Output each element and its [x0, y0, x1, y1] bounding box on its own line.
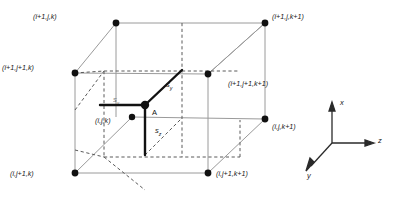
vector-s-y-subscript: y — [170, 85, 173, 91]
cell-nodes — [72, 20, 269, 177]
node-label-top-back-right: (i+1,j,k+1) — [272, 13, 304, 20]
node-top-front-left — [72, 70, 79, 77]
point-a-label: A — [152, 108, 157, 117]
axis-x-arrowhead — [329, 102, 335, 111]
node-top-front-right — [205, 71, 212, 78]
vector-s-x-subscript: x — [117, 100, 120, 106]
edge-front-top — [75, 73, 208, 74]
node-point-a — [141, 101, 149, 109]
hidden-diag-sz-guide — [145, 118, 182, 155]
node-bot-back-left — [129, 114, 135, 120]
node-top-back-right — [262, 20, 269, 27]
node-label-top-back-left: (i+1,j,k) — [33, 13, 57, 20]
figure-canvas: (i+1,j,k) (i+1,j,k+1) (i+1,j+1,k) (i+1,j… — [0, 0, 398, 199]
cube-hidden-edges — [75, 23, 240, 190]
axis-label-z: z — [378, 136, 382, 145]
axis-z-arrowhead — [365, 140, 374, 146]
axis-triad — [306, 102, 374, 171]
edge-top-left-diag — [75, 23, 116, 73]
node-bot-front-right — [205, 170, 212, 177]
axis-label-y: y — [307, 171, 311, 180]
axis-label-x: x — [340, 98, 344, 107]
edge-mid-horiz-right — [132, 117, 265, 119]
node-bot-front-left — [72, 170, 79, 177]
hidden-diag-bottom-left — [75, 150, 104, 157]
edge-right-top — [208, 23, 265, 74]
node-label-top-front-left: (i+1,j+1,k) — [2, 64, 34, 71]
node-top-back-left — [113, 20, 120, 27]
node-bot-back-right — [262, 116, 269, 123]
cube-solid-edges — [75, 23, 265, 173]
vector-label-s-y: sy — [166, 80, 172, 91]
node-label-top-front-right: (i+1,j+1,k+1) — [228, 80, 268, 87]
cell-diagram-svg — [0, 0, 398, 199]
node-label-bot-back-left: (i,j,k) — [95, 117, 111, 124]
edge-right-bottom-diag — [208, 119, 265, 173]
vector-s-y — [145, 70, 182, 105]
vector-label-s-x: sx — [113, 95, 119, 106]
vector-s-z-subscript: z — [159, 131, 162, 137]
node-label-bot-back-right: (i,j,k+1) — [272, 123, 296, 130]
vector-label-s-z: sz — [155, 126, 161, 137]
node-label-bot-front-left: (i,j+1,k) — [10, 170, 34, 177]
node-label-bot-front-right: (i,j+1,k+1) — [216, 170, 248, 177]
